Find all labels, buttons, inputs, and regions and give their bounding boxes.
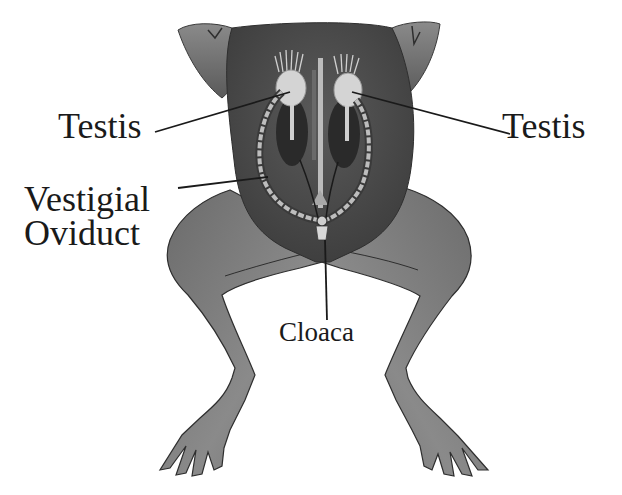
left-testis [276, 70, 306, 106]
label-testis-right: Testis [502, 108, 585, 144]
right-kidney [328, 100, 360, 168]
cloaca-opening [317, 216, 327, 226]
label-vestigial-oviduct-line1: Vestigial [24, 182, 150, 216]
right-vasa-efferentia [345, 106, 349, 141]
label-cloaca: Cloaca [279, 319, 354, 346]
frog-diagram: Testis Testis Vestigial Oviduct Cloaca [0, 0, 622, 495]
label-testis-left: Testis [58, 108, 141, 144]
vein [312, 70, 316, 160]
dorsal-vessel [318, 58, 323, 208]
label-vestigial-oviduct: Vestigial Oviduct [24, 182, 150, 250]
left-vasa-efferentia [290, 105, 294, 140]
label-vestigial-oviduct-line2: Oviduct [24, 216, 150, 250]
cloaca-body [316, 226, 328, 240]
